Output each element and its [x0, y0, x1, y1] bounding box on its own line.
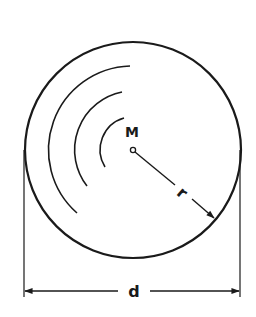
radius-line: [135, 152, 175, 185]
outer-arc: [49, 66, 130, 213]
center-label: M: [125, 124, 139, 140]
middle-arc: [75, 92, 122, 186]
inner-arc: [100, 118, 124, 167]
diameter-label: d: [128, 282, 139, 301]
radius-label: r: [173, 183, 191, 203]
circle-diagram: M r d: [0, 0, 256, 317]
center-point-icon: [130, 147, 135, 152]
radius-arrow-line: [192, 199, 214, 218]
